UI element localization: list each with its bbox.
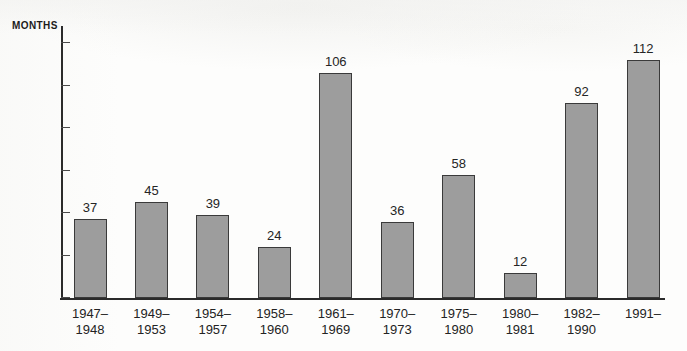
bar (504, 273, 537, 299)
x-axis-category-line: 1960 (256, 322, 292, 338)
bar-group: 39 (196, 26, 229, 298)
y-axis-tick-mark (61, 127, 70, 128)
x-axis-category-label: 1970–1973 (379, 306, 415, 338)
y-axis-tick-mark (61, 212, 70, 213)
plot-area: 020406080100120 3745392410636581292112 1… (61, 26, 665, 298)
x-axis-category-line: 1990 (563, 322, 599, 338)
bar (135, 202, 168, 298)
bar-value-label: 112 (633, 41, 654, 56)
bar-value-label: 106 (325, 54, 347, 69)
bar (319, 73, 352, 298)
x-axis-category-label: 1961–1969 (318, 306, 354, 338)
bar (258, 247, 291, 298)
x-axis-category-line: 1970– (379, 306, 415, 322)
x-axis-category-label: 1982–1990 (563, 306, 599, 338)
x-axis-category-label: 1958–1960 (256, 306, 292, 338)
x-axis-category-line: 1948 (72, 322, 108, 338)
bar-group: 12 (504, 26, 537, 298)
bar-chart-figure: MONTHS 020406080100120 37453924106365812… (0, 0, 687, 351)
x-axis-category-line: 1973 (379, 322, 415, 338)
x-axis-category-label: 1954–1957 (195, 306, 231, 338)
x-axis-category-line: 1991– (625, 306, 661, 322)
y-axis-line (61, 26, 63, 298)
y-axis-tick-mark (61, 85, 70, 86)
x-axis-category-label: 1991– (625, 306, 661, 322)
x-axis-category-label: 1949–1953 (133, 306, 169, 338)
bar-group: 112 (627, 26, 660, 298)
bar-value-label: 92 (574, 84, 588, 99)
x-axis-category-line: 1980– (502, 306, 538, 322)
x-axis-category-line: 1980 (441, 322, 477, 338)
bar-group: 92 (565, 26, 598, 298)
x-axis-category-line: 1949– (133, 306, 169, 322)
x-axis-category-label: 1975–1980 (441, 306, 477, 338)
y-axis-title: MONTHS (12, 20, 58, 31)
bar (196, 215, 229, 298)
bar-group: 58 (442, 26, 475, 298)
x-axis-category-label: 1947–1948 (72, 306, 108, 338)
bar-group: 106 (319, 26, 352, 298)
x-axis-category-line: 1954– (195, 306, 231, 322)
bar (627, 60, 660, 298)
x-axis-category-label: 1980–1981 (502, 306, 538, 338)
x-axis-category-labels: 1947–19481949–19531954–19571958–19601961… (61, 298, 665, 338)
bar-group: 45 (135, 26, 168, 298)
x-axis-category-line: 1947– (72, 306, 108, 322)
bar-group: 24 (258, 26, 291, 298)
bar-value-label: 24 (267, 228, 281, 243)
y-axis-tick-mark (61, 255, 70, 256)
x-axis-category-line: 1958– (256, 306, 292, 322)
x-axis-category-line: 1957 (195, 322, 231, 338)
bar-value-label: 36 (390, 203, 404, 218)
x-axis-category-line: 1982– (563, 306, 599, 322)
y-axis-tick-mark (61, 42, 70, 43)
bar-group: 36 (381, 26, 414, 298)
bar (442, 175, 475, 298)
x-axis-category-line: 1981 (502, 322, 538, 338)
bar-group: 37 (74, 26, 107, 298)
bar (565, 103, 598, 299)
bar-value-label: 37 (83, 200, 97, 215)
bar-value-label: 58 (451, 156, 465, 171)
y-axis-tick-mark (61, 170, 70, 171)
bar-value-label: 39 (206, 196, 220, 211)
x-axis-category-line: 1953 (133, 322, 169, 338)
bar-value-label: 12 (513, 254, 527, 269)
bar (381, 222, 414, 299)
x-axis-category-line: 1975– (441, 306, 477, 322)
bar (74, 219, 107, 298)
bar-value-label: 45 (144, 183, 158, 198)
x-axis-category-line: 1969 (318, 322, 354, 338)
x-axis-category-line: 1961– (318, 306, 354, 322)
